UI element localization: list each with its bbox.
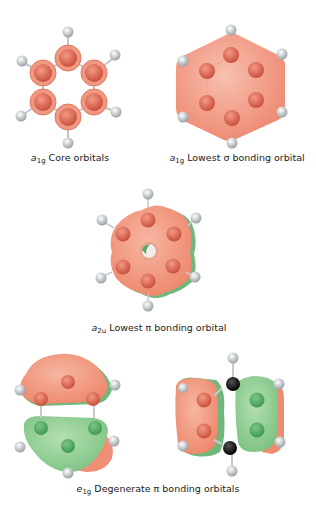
caption-e1g-pi: e1g Degenerate π bonding orbitals	[0, 483, 316, 496]
caption-label: Degenerate π bonding orbitals	[94, 483, 239, 494]
caption-label: Core orbitals	[49, 152, 110, 163]
caption-label: Lowest σ bonding orbital	[187, 152, 304, 163]
caption-a1g-core: a1g Core orbitals	[0, 152, 140, 165]
panel-a1g-sigma: a1g Lowest σ bonding orbital	[158, 0, 316, 170]
symmetry-subscript: 1g	[82, 488, 91, 496]
symmetry-subscript: 1g	[37, 157, 46, 165]
caption-a2u-pi: a2u Lowest π bonding orbital	[80, 322, 238, 335]
panel-a1g-core: a1g Core orbitals	[0, 0, 158, 170]
benzene-core-orbitals-diagram	[0, 0, 158, 170]
benzene-a2u-pi-orbital-diagram	[80, 170, 240, 340]
panel-e1g-pi: e1g Degenerate π bonding orbitals	[0, 340, 316, 515]
panel-a2u-pi: a2u Lowest π bonding orbital	[80, 170, 240, 340]
e1g-orbital-right-diagram	[0, 340, 316, 480]
symmetry-subscript: 1g	[175, 157, 184, 165]
caption-a1g-sigma: a1g Lowest σ bonding orbital	[158, 152, 316, 165]
benzene-sigma-orbital-diagram	[158, 0, 316, 170]
caption-label: Lowest π bonding orbital	[109, 322, 226, 333]
symmetry-subscript: 2u	[97, 327, 106, 335]
